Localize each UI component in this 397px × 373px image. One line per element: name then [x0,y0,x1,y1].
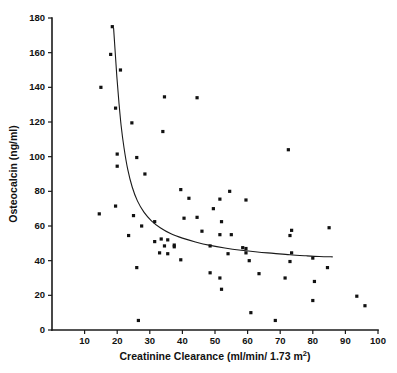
y-tick-label: 140 [29,81,45,92]
data-point [283,276,286,279]
scatter-plot-figure: 020406080100120140160180 102030405060708… [0,0,397,373]
data-point [218,198,221,201]
data-point [326,266,329,269]
data-point [244,251,247,254]
data-point [241,246,244,249]
x-tick-label: 50 [210,335,221,346]
data-point [212,207,215,210]
data-point [244,247,247,250]
y-tick-label: 180 [29,12,45,23]
x-tick-label: 90 [340,335,351,346]
y-tick-label: 40 [34,255,45,266]
data-point [313,280,316,283]
data-point [160,237,163,240]
data-point [109,53,112,56]
data-point [173,245,176,248]
data-point [119,68,122,71]
data-point [209,244,212,247]
data-point [311,256,314,259]
data-point [200,230,203,233]
data-point [249,311,252,314]
y-tick-label: 160 [29,47,45,58]
x-tick-label: 40 [177,335,188,346]
data-point [163,95,166,98]
data-point [290,251,293,254]
data-point [363,304,366,307]
data-point [99,86,102,89]
data-point [98,212,101,215]
y-tick-label: 80 [34,185,45,196]
data-point [135,266,138,269]
data-point [230,233,233,236]
data-point [248,259,251,262]
y-axis-ticks: 020406080100120140160180 [29,12,52,335]
data-point [137,319,140,322]
x-tick-label: 10 [79,335,90,346]
x-tick-label: 20 [112,335,123,346]
data-point [130,121,133,124]
y-tick-label: 100 [29,151,45,162]
data-point [355,295,358,298]
data-point [187,197,190,200]
data-point [135,156,138,159]
data-point [166,252,169,255]
data-point [288,234,291,237]
data-point [153,220,156,223]
y-tick-label: 120 [29,116,45,127]
x-tick-label: 80 [308,335,319,346]
data-point [218,233,221,236]
data-point [195,96,198,99]
x-tick-label: 30 [145,335,156,346]
x-axis-ticks: 102030405060708090100 [79,330,386,346]
data-point [311,299,314,302]
data-point [195,216,198,219]
data-point [290,229,293,232]
data-point [116,152,119,155]
data-point [179,188,182,191]
data-point [244,198,247,201]
data-point [220,220,223,223]
data-point [288,260,291,263]
y-tick-label: 0 [40,324,45,335]
x-tick-label: 60 [242,335,253,346]
data-point [161,130,164,133]
data-point [153,240,156,243]
data-point [163,244,166,247]
data-point [140,224,143,227]
data-point [114,107,117,110]
data-point [257,272,260,275]
axes-group [52,18,378,330]
data-point [132,214,135,217]
data-point [328,226,331,229]
data-point [218,276,221,279]
data-point [143,172,146,175]
data-point [158,251,161,254]
data-point [127,234,130,237]
x-tick-label: 70 [275,335,286,346]
data-point [166,238,169,241]
data-point [226,252,229,255]
chart-canvas: 020406080100120140160180 102030405060708… [0,0,397,373]
data-point [209,271,212,274]
y-tick-label: 60 [34,220,45,231]
data-point [114,204,117,207]
data-point [228,190,231,193]
data-point [220,288,223,291]
data-points-group [98,25,367,322]
y-axis-title: Osteocalcin (ng/ml) [7,125,19,222]
data-point [287,148,290,151]
x-tick-label: 100 [370,335,386,346]
data-point [274,319,277,322]
x-axis-title: Creatinine Clearance (ml/min/ 1.73 m2) [120,349,311,363]
data-point [116,165,119,168]
data-point [179,258,182,261]
data-point [182,217,185,220]
data-point [111,25,114,28]
y-tick-label: 20 [34,289,45,300]
